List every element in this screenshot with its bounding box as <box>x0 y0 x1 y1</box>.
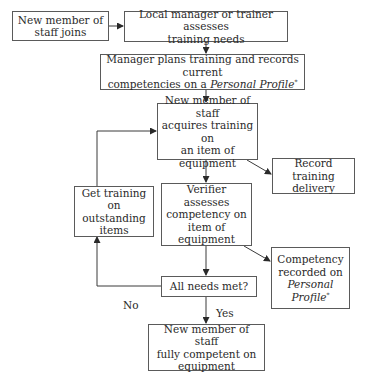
personal-profile-term: Personal <box>277 278 343 291</box>
node-text-line: Record training <box>276 157 351 182</box>
node-text-line: item of <box>165 221 248 234</box>
footnote-marker: * <box>294 78 297 85</box>
node-text-line: an item of <box>161 144 254 157</box>
node-record-training: Record training delivery <box>272 158 355 194</box>
node-text-line: equipment <box>152 360 261 373</box>
personal-profile-term: Profile <box>292 291 327 303</box>
node-text-line: training needs <box>128 33 284 46</box>
node-new-member-joins: New member of staff joins <box>12 11 109 41</box>
node-verifier-assesses: Verifier assesses competency on item of … <box>161 183 252 246</box>
node-text-line: New member of <box>18 14 103 27</box>
arrow-allneeds-to-gettraining <box>97 237 161 286</box>
arrow-gettraining-to-acquire <box>97 131 156 186</box>
node-text-line: equipment <box>165 233 248 246</box>
node-text-line: fully competent on <box>152 348 261 361</box>
node-text-line: Get training on <box>78 187 150 212</box>
footnote-marker: * <box>326 290 329 297</box>
node-text-line: delivery <box>276 182 351 195</box>
node-competency-recorded: Competency recorded on Personal Profile* <box>271 247 350 309</box>
node-plan-training: Manager plans training and records curre… <box>100 54 305 90</box>
edge-label-no: No <box>123 299 139 311</box>
node-text-line: New member of staff <box>161 94 254 119</box>
node-all-needs-met: All needs met? <box>161 276 257 297</box>
personal-profile-term: Personal Profile <box>210 78 294 90</box>
node-text-line: equipment <box>161 157 254 170</box>
node-text-line: competencies on a Personal Profile* <box>104 78 301 91</box>
node-text-fragment: competencies on a <box>108 78 211 90</box>
node-text-line: competency on <box>165 208 248 221</box>
node-text-line: outstanding <box>78 212 150 225</box>
edge-label-yes: Yes <box>216 307 234 319</box>
node-text-line: acquires training on <box>161 119 254 144</box>
node-text-line: recorded on <box>277 266 343 279</box>
node-text-line: items <box>78 224 150 237</box>
arrow-verifier-to-competency <box>244 246 270 261</box>
node-get-training: Get training on outstanding items <box>74 186 154 237</box>
node-fully-competent: New member of staff fully competent on e… <box>148 324 265 371</box>
node-text-line: Local manager or trainer assesses <box>128 8 284 33</box>
node-text-line: staff joins <box>18 26 103 39</box>
node-acquire-training: New member of staff acquires training on… <box>157 103 258 160</box>
node-text-line: Profile* <box>277 291 343 304</box>
node-text-line: Verifier assesses <box>165 183 248 208</box>
node-text-line: Competency <box>277 253 343 266</box>
decision-text: All needs met? <box>170 280 248 293</box>
node-text-line: New member of staff <box>152 323 261 348</box>
node-text-line: Manager plans training and records curre… <box>104 53 301 78</box>
node-assess-needs: Local manager or trainer assesses traini… <box>124 11 288 42</box>
